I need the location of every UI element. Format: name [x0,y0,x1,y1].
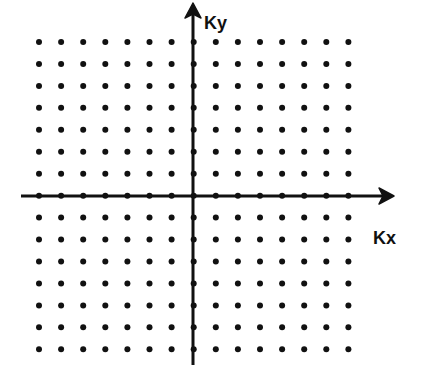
lattice-point [301,259,307,265]
lattice-point [257,83,263,89]
lattice-point [169,215,175,221]
lattice-point [301,280,307,286]
lattice-point [323,259,329,265]
lattice-point [124,215,130,221]
lattice-point [213,302,219,308]
lattice-point [301,215,307,221]
lattice-point [36,302,42,308]
lattice-point [301,302,307,308]
lattice-point [213,171,219,177]
lattice-point [58,302,64,308]
lattice-point [102,324,108,330]
lattice-point [102,61,108,67]
lattice-point [345,39,351,45]
lattice-point [257,39,263,45]
lattice-point [345,215,351,221]
lattice-point [301,61,307,67]
lattice-point [235,105,241,111]
lattice-point [323,149,329,155]
lattice-point [345,259,351,265]
lattice-point [102,346,108,352]
lattice-point [235,302,241,308]
lattice-point [147,61,153,67]
lattice-point [36,237,42,243]
lattice-point [147,259,153,265]
lattice-point [36,324,42,330]
lattice-point [279,215,285,221]
lattice-point [169,171,175,177]
lattice-point [169,280,175,286]
lattice-point [213,346,219,352]
lattice-point [235,61,241,67]
lattice-point [301,105,307,111]
lattice-point [213,237,219,243]
lattice-point [301,171,307,177]
lattice-point [257,346,263,352]
lattice-point [80,127,86,133]
lattice-point [169,259,175,265]
lattice-point [235,346,241,352]
k-space-diagram [0,0,423,379]
lattice-point [102,259,108,265]
lattice-point [345,83,351,89]
lattice-point [124,280,130,286]
lattice-point [169,61,175,67]
lattice-point [102,127,108,133]
lattice-point [323,105,329,111]
lattice-point [147,127,153,133]
lattice-point [213,61,219,67]
lattice-point [102,280,108,286]
lattice-point [102,171,108,177]
lattice-point [345,127,351,133]
lattice-point [102,237,108,243]
lattice-point [147,39,153,45]
lattice-point [301,39,307,45]
lattice-point [169,39,175,45]
lattice-point [36,127,42,133]
lattice-point [213,105,219,111]
lattice-point [301,149,307,155]
lattice-point [102,215,108,221]
lattice-point [279,39,285,45]
lattice-point [80,259,86,265]
lattice-point [58,280,64,286]
lattice-point [257,171,263,177]
lattice-point [36,215,42,221]
lattice-point [58,259,64,265]
lattice-point [36,39,42,45]
lattice-point [102,83,108,89]
lattice-point [257,149,263,155]
lattice-point [257,127,263,133]
lattice-point [257,324,263,330]
lattice-point [257,302,263,308]
lattice-point [147,324,153,330]
lattice-point [323,39,329,45]
lattice-point [80,346,86,352]
lattice-point [323,280,329,286]
lattice-point [279,127,285,133]
lattice-point [279,346,285,352]
lattice-point [124,259,130,265]
lattice-point [58,237,64,243]
lattice-point [124,61,130,67]
lattice-point [301,346,307,352]
lattice-point [102,149,108,155]
lattice-point [169,324,175,330]
lattice-point [279,280,285,286]
lattice-point [124,39,130,45]
lattice-point [213,280,219,286]
lattice-point [279,237,285,243]
lattice-point [323,346,329,352]
lattice-point [80,105,86,111]
lattice-point [169,237,175,243]
lattice-point [169,149,175,155]
lattice-point [279,324,285,330]
lattice-point [124,83,130,89]
lattice-point [58,83,64,89]
lattice-point [213,39,219,45]
lattice-point [323,215,329,221]
lattice-point [147,346,153,352]
lattice-point [345,149,351,155]
lattice-point [80,171,86,177]
lattice-point [36,259,42,265]
